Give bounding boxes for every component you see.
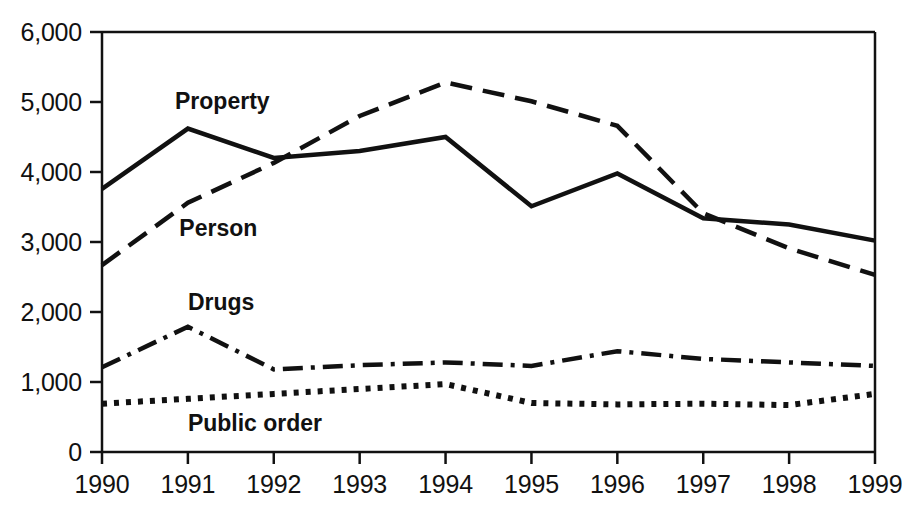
x-tick-label: 1990 [75, 470, 130, 499]
y-tick-label: 6,000 [20, 18, 82, 47]
x-tick-label: 1993 [332, 470, 387, 499]
series-line-drugs [102, 327, 875, 370]
y-tick-label: 0 [68, 438, 82, 467]
y-tick-label: 2,000 [20, 298, 82, 327]
y-tick-label: 1,000 [20, 368, 82, 397]
series-label-property: Property [175, 88, 270, 115]
x-tick-label: 1991 [160, 470, 215, 499]
x-tick-label: 1996 [590, 470, 645, 499]
chart-series-group [102, 82, 875, 405]
series-label-person: Person [179, 215, 257, 242]
series-label-public-order: Public order [188, 410, 322, 437]
x-tick-label: 1997 [676, 470, 731, 499]
series-label-drugs: Drugs [188, 289, 254, 316]
y-tick-label: 3,000 [20, 228, 82, 257]
x-tick-label: 1992 [246, 470, 301, 499]
x-tick-label: 1998 [762, 470, 817, 499]
y-tick-label: 4,000 [20, 158, 82, 187]
y-tick-label: 5,000 [20, 88, 82, 117]
series-line-public-order [102, 384, 875, 405]
x-tick-label: 1999 [848, 470, 902, 499]
x-tick-label: 1995 [504, 470, 559, 499]
x-tick-label: 1994 [418, 470, 473, 499]
